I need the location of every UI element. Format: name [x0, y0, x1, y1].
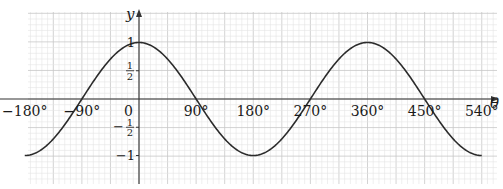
x-tick-label: 90° [184, 103, 209, 119]
x-tick-label: 180° [236, 103, 270, 119]
x-tick-label: 270° [294, 103, 328, 119]
x-tick-labels: −180°−90°090°180°270°360°450°540° [2, 103, 499, 119]
axes [0, 9, 499, 184]
y-axis-label: y [125, 5, 135, 23]
y-tick-label-numerator: 1 [127, 60, 133, 71]
cosine-graph: −180°−90°090°180°270°360°450°540° 112−12… [0, 0, 503, 189]
x-tick-label: 450° [408, 103, 442, 119]
x-tick-label: −180° [2, 103, 47, 119]
y-tick-label-numerator: 1 [127, 117, 133, 128]
x-tick-label: 360° [351, 103, 385, 119]
minus-sign: − [113, 119, 124, 134]
x-axis-label: θ [490, 94, 499, 112]
y-tick-label: 1 [127, 35, 135, 50]
grid [28, 12, 497, 184]
y-tick-label-denominator: 2 [127, 127, 133, 138]
x-tick-label: −90° [64, 103, 101, 119]
y-tick-label: −1 [116, 148, 135, 163]
y-tick-label-denominator: 2 [127, 71, 133, 82]
